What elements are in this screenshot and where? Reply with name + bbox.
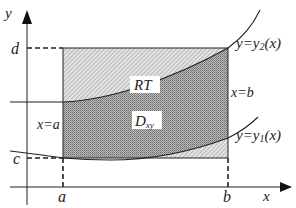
y-axis-arrow-icon [22,10,32,24]
label-upper-curve: y=y2(x) [234,35,281,52]
x-axis-arrow-icon [280,182,292,192]
x-axis-label: x [262,188,270,204]
integration-region-diagram: y x d c a b x=a x=b y=y2(x) y=y1(x) RT D… [0,0,296,208]
tick-a: a [58,188,66,205]
svg-text:y=y2(x): y=y2(x) [234,35,281,52]
tick-d: d [11,40,20,57]
tick-b: b [223,188,231,205]
tick-c: c [13,150,20,167]
y-axis-label: y [3,5,12,21]
svg-text:y=y1(x): y=y1(x) [234,127,281,144]
label-rt: RT [133,77,153,93]
label-x-equals-a: x=a [36,117,60,132]
label-x-equals-b: x=b [230,85,254,100]
label-lower-curve: y=y1(x) [234,127,281,144]
